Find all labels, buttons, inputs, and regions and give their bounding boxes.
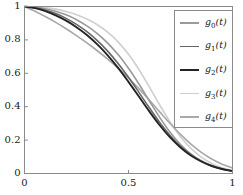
legend-label-argument: (t): [216, 63, 227, 74]
y-tick-label: 0.8: [5, 33, 21, 44]
y-tick-label: 1: [14, 0, 20, 11]
chart-figure: 00.20.40.60.8100.51g0(t)g1(t)g2(t)g3(t)g…: [0, 0, 242, 195]
chart-legend: g0(t)g1(t)g2(t)g3(t)g4(t): [174, 10, 233, 128]
legend-item-g1(t)[interactable]: g1(t): [180, 40, 227, 52]
legend-swatch-g0(t): [180, 22, 199, 24]
legend-item-g0(t)[interactable]: g0(t): [180, 17, 227, 29]
legend-swatch-g1(t): [180, 46, 199, 48]
y-tick-label: 0.2: [5, 134, 21, 145]
legend-label-g0(t): g0(t): [205, 16, 227, 30]
legend-item-g3(t)[interactable]: g3(t): [180, 88, 227, 100]
legend-label-g1(t): g1(t): [205, 39, 227, 53]
y-tick-label: 0.4: [5, 100, 21, 111]
legend-item-g2(t)[interactable]: g2(t): [180, 64, 227, 76]
legend-label-g3(t): g3(t): [205, 87, 227, 101]
x-tick-label: 0.5: [109, 177, 149, 188]
legend-label-g4(t): g4(t): [205, 110, 227, 124]
legend-label-argument: (t): [216, 16, 227, 27]
legend-swatch-g4(t): [180, 116, 199, 118]
legend-swatch-g3(t): [180, 93, 199, 95]
x-tick-label: 0: [5, 177, 45, 188]
y-tick-label: 0.6: [5, 67, 21, 78]
x-tick-label: 1: [213, 177, 243, 188]
legend-label-argument: (t): [216, 110, 227, 121]
legend-label-argument: (t): [216, 87, 227, 98]
legend-swatch-g2(t): [180, 69, 199, 71]
legend-label-argument: (t): [216, 39, 227, 50]
legend-label-g2(t): g2(t): [205, 63, 227, 77]
legend-item-g4(t)[interactable]: g4(t): [180, 111, 227, 123]
